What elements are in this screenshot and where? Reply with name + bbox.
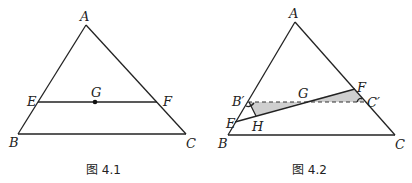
- point-g-dot: [93, 100, 98, 105]
- side-ab: [18, 25, 86, 134]
- label-g: G: [298, 86, 308, 101]
- label-f: F: [162, 94, 173, 109]
- caption-fig-4-1: 图 4.1: [86, 163, 121, 177]
- label-c-prime: C′: [367, 95, 380, 110]
- label-c: C: [395, 137, 405, 152]
- label-a: A: [288, 6, 298, 21]
- label-b: B: [217, 136, 228, 151]
- label-g: G: [91, 85, 101, 100]
- shaded-triangle-bgh: [249, 102, 303, 116]
- label-c: C: [186, 136, 196, 151]
- side-ac: [295, 22, 395, 135]
- caption-fig-4-2: 图 4.2: [292, 163, 327, 177]
- geometry-figures: A B C E F G 图 4.1 A B C B′ C′ E F G H 图 …: [0, 0, 412, 183]
- label-f: F: [356, 80, 367, 95]
- figure-4-1: A B C E F G 图 4.1: [8, 9, 196, 177]
- figure-4-2: A B C B′ C′ E F G H 图 4.2: [217, 6, 405, 177]
- label-b: B: [8, 135, 19, 150]
- label-h: H: [251, 119, 264, 134]
- label-e: E: [225, 116, 236, 131]
- label-a: A: [79, 9, 89, 24]
- label-b-prime: B′: [231, 94, 245, 109]
- side-ac: [86, 25, 186, 134]
- label-e: E: [26, 94, 37, 109]
